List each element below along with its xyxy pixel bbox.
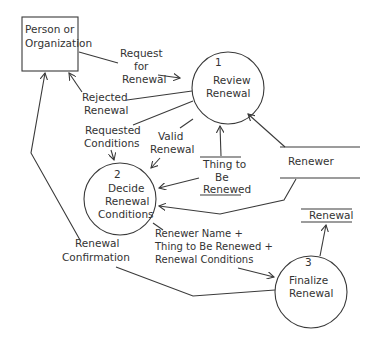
- flow-label-line-1: Rejected: [82, 91, 128, 103]
- flow-renewer-to-review[interactable]: [248, 114, 285, 147]
- flow-arrow: [238, 268, 274, 277]
- flow-label-line-3: Renewal Conditions: [155, 254, 253, 265]
- flow-thing-to-decide[interactable]: [159, 178, 199, 188]
- flow-label-line-2: Thing to Be Renewed +: [154, 241, 273, 252]
- process-label-line-2: Renewal: [105, 195, 149, 207]
- datastore-label-line-3: Renewed: [203, 183, 251, 195]
- entity-label-line-1: Person or: [25, 23, 75, 35]
- process-number: 1: [215, 56, 222, 68]
- flow-finalize-to-renewal[interactable]: [320, 225, 326, 256]
- flow-line: [79, 52, 118, 63]
- flow-label-line-1: Requested: [85, 124, 141, 136]
- process-decide-renewal-conditions[interactable]: 2 Decide Renewal Conditions: [84, 163, 156, 235]
- entity-label-line-2: Organization: [25, 37, 92, 49]
- flow-label-line-2: Confirmation: [62, 251, 130, 263]
- flow-line-upper: [31, 73, 80, 240]
- flow-line: [133, 101, 193, 125]
- datastore-renewer[interactable]: Renewer: [280, 147, 360, 178]
- datastore-label-line-1: Thing to: [202, 158, 246, 170]
- flow-label-line-1: Renewal: [75, 237, 119, 249]
- flow-label-line-1: Valid: [158, 130, 183, 142]
- flow-renewer-name-thing-conditions[interactable]: Renewer Name + Thing to Be Renewed + Ren…: [153, 223, 274, 277]
- entity-person-or-organization[interactable]: Person or Organization: [22, 17, 92, 71]
- process-number: 3: [305, 256, 312, 268]
- process-label-line-2: Renewal: [206, 87, 250, 99]
- flow-thing-to-review[interactable]: [220, 126, 221, 156]
- flow-arrow: [151, 158, 160, 168]
- process-number: 2: [114, 168, 121, 180]
- flow-valid-renewal[interactable]: Valid Renewal: [150, 119, 194, 168]
- process-label-line-1: Review: [213, 74, 251, 86]
- datastore-label-line-2: Be: [215, 171, 229, 183]
- process-review-renewal[interactable]: 1 Review Renewal: [192, 52, 264, 124]
- flow-label-line-2: Renewal: [84, 104, 128, 116]
- datastore-thing-to-be-renewed[interactable]: Thing to Be Renewed: [200, 157, 251, 195]
- flow-line: [127, 91, 192, 100]
- process-label-line-1: Finalize: [289, 274, 328, 286]
- flow-label-line-1: Request: [120, 47, 163, 59]
- datastore-renewal[interactable]: Renewal: [301, 209, 353, 222]
- flow-label-line-1: Renewer Name +: [155, 228, 243, 239]
- flow-arrow: [69, 73, 82, 92]
- flow-label-line-2: Conditions: [84, 137, 140, 149]
- flow-arrow: [111, 150, 114, 160]
- flow-line: [180, 119, 193, 128]
- flow-label-line-2: for: [134, 60, 149, 72]
- data-flow-diagram: Person or Organization 1 Review Renewal …: [0, 0, 366, 339]
- process-finalize-renewal[interactable]: 3 Finalize Renewal: [275, 256, 347, 328]
- flow-label-line-3: Renewal: [122, 73, 166, 85]
- process-label-line-2: Renewal: [289, 287, 333, 299]
- flow-label-line-2: Renewal: [150, 143, 194, 155]
- process-label-line-3: Conditions: [98, 208, 154, 220]
- flow-request-for-renewal[interactable]: Request for Renewal: [79, 47, 180, 85]
- datastore-label: Renewer: [288, 155, 334, 167]
- datastore-label: Renewal: [309, 209, 353, 221]
- process-label-line-1: Decide: [108, 182, 144, 194]
